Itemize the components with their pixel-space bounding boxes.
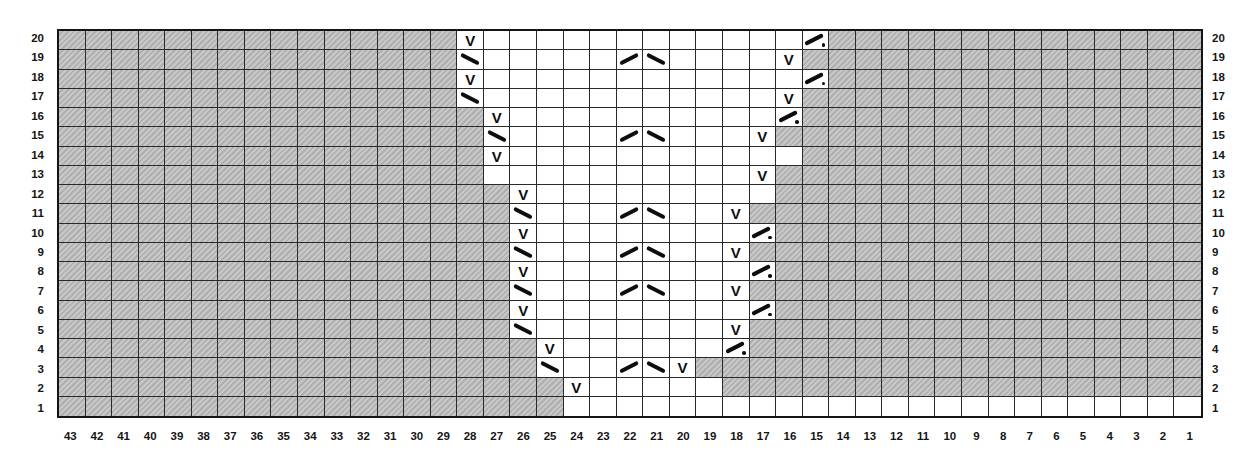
no-stitch-cell <box>457 378 484 397</box>
no-stitch-cell <box>139 243 166 262</box>
no-stitch-cell <box>165 320 192 339</box>
no-stitch-cell <box>325 358 352 377</box>
stitch-cell <box>670 301 697 320</box>
no-stitch-cell <box>989 70 1016 89</box>
no-stitch-cell <box>1095 224 1122 243</box>
no-stitch-cell <box>139 301 166 320</box>
no-stitch-cell <box>192 108 219 127</box>
no-stitch-cell <box>298 378 325 397</box>
no-stitch-cell <box>245 204 272 223</box>
no-stitch-cell <box>750 243 777 262</box>
row-number-left: 9 <box>14 243 44 262</box>
no-stitch-cell <box>404 50 431 69</box>
no-stitch-cell <box>457 339 484 358</box>
no-stitch-cell <box>378 358 405 377</box>
stitch-cell <box>590 262 617 281</box>
no-stitch-cell <box>935 358 962 377</box>
no-stitch-cell <box>1174 31 1201 50</box>
no-stitch-cell <box>909 204 936 223</box>
stitch-cell <box>510 70 537 89</box>
no-stitch-cell <box>1095 358 1122 377</box>
no-stitch-cell <box>192 262 219 281</box>
column-number: 34 <box>297 430 324 442</box>
no-stitch-cell <box>723 378 750 397</box>
no-stitch-cell <box>935 339 962 358</box>
backslash-symbol <box>646 130 666 142</box>
stitch-cell <box>537 89 564 108</box>
no-stitch-cell <box>1068 147 1095 166</box>
no-stitch-cell <box>298 127 325 146</box>
no-stitch-cell <box>86 281 113 300</box>
stitch-cell <box>750 224 777 243</box>
backslash-symbol <box>540 361 560 373</box>
no-stitch-cell <box>1042 358 1069 377</box>
v-symbol: V <box>776 89 802 107</box>
no-stitch-cell <box>271 204 298 223</box>
no-stitch-cell <box>856 185 883 204</box>
no-stitch-cell <box>962 31 989 50</box>
no-stitch-cell <box>1015 127 1042 146</box>
no-stitch-cell <box>1015 378 1042 397</box>
stitch-cell <box>856 397 883 416</box>
no-stitch-cell <box>1174 339 1201 358</box>
column-number: 7 <box>1016 430 1043 442</box>
no-stitch-cell <box>404 301 431 320</box>
row-number-left: 2 <box>14 379 44 398</box>
no-stitch-cell <box>1015 339 1042 358</box>
no-stitch-cell <box>218 397 245 416</box>
no-stitch-cell <box>1095 70 1122 89</box>
slash-symbol <box>620 284 640 296</box>
no-stitch-cell <box>139 147 166 166</box>
backslash-symbol <box>646 246 666 258</box>
no-stitch-cell <box>882 50 909 69</box>
stitch-cell <box>564 185 591 204</box>
stitch-cell <box>590 70 617 89</box>
no-stitch-cell <box>1068 108 1095 127</box>
no-stitch-cell <box>59 108 86 127</box>
no-stitch-cell <box>271 185 298 204</box>
stitch-cell <box>696 397 723 416</box>
stitch-cell <box>564 339 591 358</box>
no-stitch-cell <box>457 397 484 416</box>
stitch-cell <box>590 50 617 69</box>
no-stitch-cell <box>457 262 484 281</box>
no-stitch-cell <box>1042 339 1069 358</box>
row-number-left: 19 <box>14 48 44 67</box>
column-number: 27 <box>483 430 510 442</box>
no-stitch-cell <box>325 89 352 108</box>
column-number: 35 <box>270 430 297 442</box>
no-stitch-cell <box>1095 301 1122 320</box>
no-stitch-cell <box>325 108 352 127</box>
stitch-cell <box>723 147 750 166</box>
stitch-cell <box>564 166 591 185</box>
stitch-cell <box>590 108 617 127</box>
no-stitch-cell <box>218 50 245 69</box>
no-stitch-cell <box>351 281 378 300</box>
stitch-cell <box>537 166 564 185</box>
stitch-cell <box>803 397 830 416</box>
v-symbol: V <box>484 108 510 126</box>
no-stitch-cell <box>1148 127 1175 146</box>
column-number: 32 <box>350 430 377 442</box>
no-stitch-cell <box>457 301 484 320</box>
no-stitch-cell <box>989 358 1016 377</box>
stitch-cell <box>564 31 591 50</box>
stitch-cell <box>537 281 564 300</box>
no-stitch-cell <box>1148 224 1175 243</box>
stitch-cell <box>617 70 644 89</box>
no-stitch-cell <box>112 185 139 204</box>
row-number-right: 15 <box>1212 126 1242 145</box>
stitch-cell <box>750 397 777 416</box>
no-stitch-cell <box>1148 262 1175 281</box>
no-stitch-cell <box>325 224 352 243</box>
no-stitch-cell <box>776 204 803 223</box>
stitch-cell <box>537 358 564 377</box>
stitch-cell <box>643 89 670 108</box>
no-stitch-cell <box>112 224 139 243</box>
stitch-cell <box>696 185 723 204</box>
stitch-cell <box>750 50 777 69</box>
no-stitch-cell <box>325 50 352 69</box>
no-stitch-cell <box>271 31 298 50</box>
no-stitch-cell <box>298 31 325 50</box>
stitch-cell <box>776 108 803 127</box>
